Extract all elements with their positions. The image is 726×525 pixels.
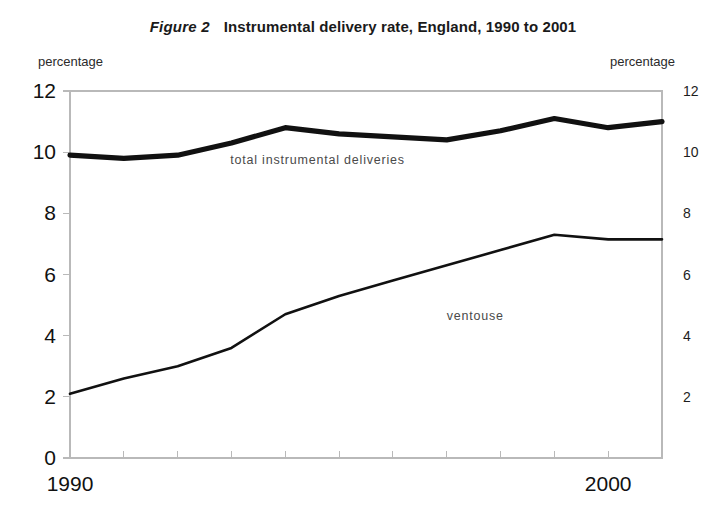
y-tick-label-left: 6 [44, 263, 56, 286]
plot-frame [70, 91, 662, 458]
x-tick-label: 1990 [47, 472, 94, 495]
y-tick-label-left: 12 [33, 79, 56, 102]
series-line-total-instrumental-deliveries [70, 119, 662, 159]
figure-container: Figure 2Instrumental delivery rate, Engl… [0, 0, 726, 525]
plot-border [70, 91, 662, 458]
series-label-ventouse: ventouse [447, 309, 504, 323]
x-tick-label: 2000 [585, 472, 632, 495]
y-tick-label-right: 12 [683, 83, 699, 99]
series-line-ventouse [70, 235, 662, 394]
y-tick-label-right: 4 [683, 328, 691, 344]
y-tick-label-left: 4 [44, 324, 56, 347]
y-axis-left-ticks: 024681012 [33, 79, 70, 469]
series-annotations: total instrumental deliveriesventouse [230, 153, 504, 323]
y-tick-label-left: 10 [33, 140, 56, 163]
y-tick-label-left: 0 [44, 446, 56, 469]
y-axis-right-labels: 24681012 [683, 83, 699, 405]
y-tick-label-right: 2 [683, 389, 691, 405]
y-tick-label-right: 6 [683, 267, 691, 283]
y-tick-label-right: 8 [683, 205, 691, 221]
y-tick-label-right: 10 [683, 144, 699, 160]
series-label-total-instrumental-deliveries: total instrumental deliveries [230, 153, 405, 167]
y-tick-label-left: 8 [44, 201, 56, 224]
y-tick-label-left: 2 [44, 385, 56, 408]
line-chart: 024681012 24681012 19902000 total instru… [0, 0, 726, 525]
